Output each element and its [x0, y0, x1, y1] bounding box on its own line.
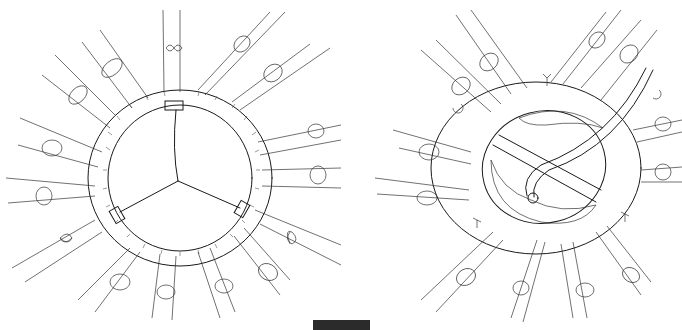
scale-bar — [313, 320, 370, 330]
valve-ring-drawing — [0, 0, 341, 330]
valve-illustration-right — [341, 0, 682, 330]
valve-illustration-left — [0, 0, 341, 330]
valve-implanted-drawing — [341, 0, 682, 330]
